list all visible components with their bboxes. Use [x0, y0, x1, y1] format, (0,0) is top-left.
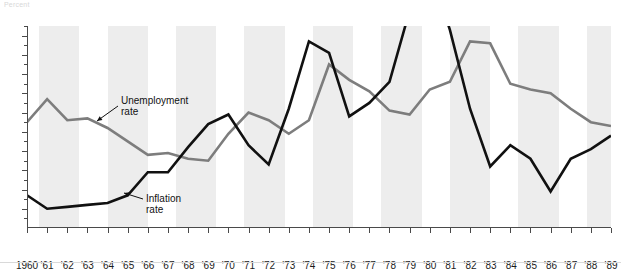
- x-axis-tick: [450, 228, 451, 233]
- series-line: [27, 26, 611, 209]
- y-axis-minor-tick: [24, 199, 27, 200]
- annotation-line-1: Inflation: [146, 193, 181, 204]
- x-axis-tick: [168, 228, 169, 233]
- x-axis-tick: [108, 228, 109, 233]
- footer-rule: [0, 262, 621, 263]
- y-axis-tick: [22, 132, 27, 133]
- x-axis-tick: [289, 228, 290, 233]
- x-axis-tick: [309, 228, 310, 233]
- y-axis-minor-tick: [24, 64, 27, 65]
- x-axis-line: [27, 227, 611, 228]
- y-axis-tick: [22, 190, 27, 191]
- x-axis-tick: [490, 228, 491, 233]
- x-axis-tick: [551, 228, 552, 233]
- y-axis-unit-label: Percent: [4, 0, 30, 8]
- x-axis-tick: [611, 228, 612, 233]
- y-axis-tick: [22, 55, 27, 56]
- y-axis-minor-tick: [24, 45, 27, 46]
- y-axis-minor-tick: [24, 161, 27, 162]
- y-axis-minor-tick: [24, 180, 27, 181]
- x-axis-tick: [510, 228, 511, 233]
- x-axis-tick: [530, 228, 531, 233]
- y-axis-minor-tick: [24, 84, 27, 85]
- series-annotation-label: Inflationrate: [146, 193, 181, 215]
- y-axis-tick: [22, 209, 27, 210]
- annotation-line-2: rate: [146, 204, 163, 215]
- y-axis-line: [27, 26, 28, 228]
- y-axis-tick: [22, 151, 27, 152]
- x-axis-tick: [87, 228, 88, 233]
- y-axis-minor-tick: [24, 26, 27, 27]
- y-axis-tick: [22, 170, 27, 171]
- y-axis-minor-tick: [24, 103, 27, 104]
- x-axis-tick: [128, 228, 129, 233]
- x-axis-tick: [27, 228, 28, 233]
- y-axis-tick: [22, 36, 27, 37]
- x-axis-tick: [249, 228, 250, 233]
- y-axis-tick: [22, 113, 27, 114]
- x-axis-tick: [47, 228, 48, 233]
- series-annotation-label: Unemploymentrate: [121, 95, 188, 117]
- plot-area: 123456789101960'61'62'63'64'65'66'67'68'…: [27, 26, 611, 228]
- x-axis-tick: [410, 228, 411, 233]
- x-axis-tick: [470, 228, 471, 233]
- series-line: [27, 41, 611, 160]
- y-axis-tick: [22, 93, 27, 94]
- x-axis-tick: [591, 228, 592, 233]
- y-axis-minor-tick: [24, 218, 27, 219]
- x-axis-tick: [389, 228, 390, 233]
- y-axis-tick: [22, 74, 27, 75]
- x-axis-tick: [329, 228, 330, 233]
- x-axis-tick: [369, 228, 370, 233]
- y-axis-minor-tick: [24, 141, 27, 142]
- x-axis-tick: [228, 228, 229, 233]
- x-axis-tick: [430, 228, 431, 233]
- x-axis-tick: [188, 228, 189, 233]
- x-axis-tick: [67, 228, 68, 233]
- x-axis-tick: [148, 228, 149, 233]
- x-axis-tick: [208, 228, 209, 233]
- x-axis-tick: [269, 228, 270, 233]
- x-axis-tick: [571, 228, 572, 233]
- y-axis-minor-tick: [24, 122, 27, 123]
- annotation-line-1: Unemployment: [121, 95, 188, 106]
- x-axis-tick: [349, 228, 350, 233]
- series-lines: [27, 26, 611, 228]
- annotation-line-2: rate: [121, 106, 138, 117]
